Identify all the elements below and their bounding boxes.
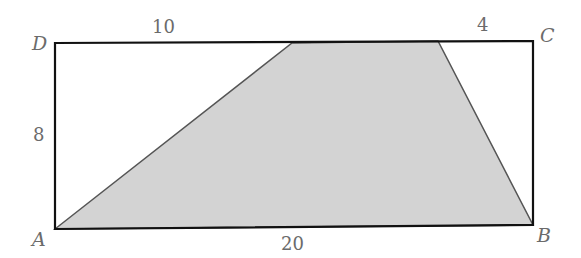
measure-top-left: 10 bbox=[152, 16, 175, 37]
measure-bottom-side: 20 bbox=[281, 233, 304, 254]
geometry-diagram: D C A B 10 4 8 20 bbox=[0, 0, 581, 258]
shaded-trapezoid bbox=[55, 41, 533, 229]
vertex-label-a: A bbox=[30, 228, 46, 250]
vertex-label-d: D bbox=[31, 32, 47, 54]
measure-left-side: 8 bbox=[33, 124, 44, 145]
vertex-label-c: C bbox=[540, 24, 555, 46]
measure-top-right: 4 bbox=[477, 14, 488, 35]
vertex-label-b: B bbox=[536, 224, 551, 246]
